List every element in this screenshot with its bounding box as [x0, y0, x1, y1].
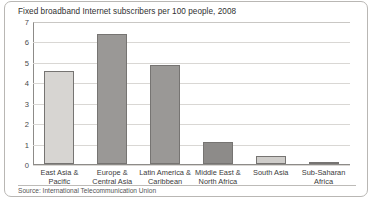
gridline	[33, 165, 350, 166]
bar[interactable]	[256, 156, 286, 164]
source-note: Source: International Telecommunication …	[18, 187, 156, 194]
chart-figure: Fixed broadband Internet subscribers per…	[4, 1, 368, 197]
bar-series	[33, 22, 350, 164]
x-axis-category-label: Europe & Central Asia	[86, 168, 139, 186]
bar[interactable]	[97, 34, 127, 164]
y-axis-tick-label: 4	[25, 79, 29, 88]
chart-title: Fixed broadband Internet subscribers per…	[18, 7, 236, 16]
x-axis-category-label: Sub-Saharan Africa	[297, 168, 350, 186]
footer-divider	[18, 185, 356, 186]
x-axis-category-label: Latin America & Caribbean	[139, 168, 192, 186]
y-axis-tick-label: 5	[25, 58, 29, 67]
bar[interactable]	[150, 65, 180, 164]
bar-slot	[297, 22, 350, 164]
x-axis-line	[33, 164, 350, 165]
bar-slot	[86, 22, 139, 164]
x-axis-category-label: East Asia & Pacific	[33, 168, 86, 186]
bar-slot	[244, 22, 297, 164]
y-axis-tick-label: 2	[25, 120, 29, 129]
y-axis-tick-label: 1	[25, 140, 29, 149]
bar-slot	[191, 22, 244, 164]
y-axis-tick-label: 6	[25, 38, 29, 47]
y-axis-tick-label: 3	[25, 99, 29, 108]
bar[interactable]	[203, 142, 233, 164]
bar-slot	[33, 22, 86, 164]
x-axis-category-label: Middle East & North Africa	[191, 168, 244, 186]
bar-slot	[139, 22, 192, 164]
x-axis-category-labels: East Asia & PacificEurope & Central Asia…	[33, 168, 350, 186]
plot-area: 01234567	[33, 22, 350, 165]
bar[interactable]	[44, 71, 74, 164]
y-axis-tick-label: 7	[25, 18, 29, 27]
y-axis-tick-label: 0	[25, 161, 29, 170]
x-axis-category-label: South Asia	[244, 168, 297, 186]
